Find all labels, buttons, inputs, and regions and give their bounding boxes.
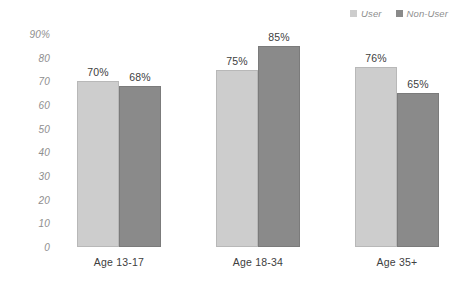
y-axis-tick-label: 70 [6, 76, 50, 87]
bar-value-label: 76% [355, 52, 397, 64]
bar-group-bars: 76%65% [355, 67, 439, 247]
bar-value-label: 75% [216, 55, 258, 67]
bar-container: 70% [77, 81, 119, 247]
y-axis-tick-label: 90% [6, 29, 50, 40]
y-axis-tick-label: 20 [6, 194, 50, 205]
bar-value-label: 65% [397, 78, 439, 90]
bar-non-user [397, 93, 439, 247]
y-axis-tick-label: 60 [6, 100, 50, 111]
y-axis: 90%80706050403020100 [0, 0, 50, 282]
bar-group: 70%68%Age 13-17 [77, 0, 161, 282]
bar-group-bars: 70%68% [77, 81, 161, 247]
bar-user [355, 67, 397, 247]
bar-value-label: 70% [77, 66, 119, 78]
y-axis-tick-label: 50 [6, 123, 50, 134]
bar-container: 75% [216, 70, 258, 248]
bar-container: 76% [355, 67, 397, 247]
bar-container: 85% [258, 46, 300, 247]
y-axis-tick-label: 0 [6, 242, 50, 253]
bar-non-user [119, 86, 161, 247]
bar-non-user [258, 46, 300, 247]
bar-user [216, 70, 258, 248]
bar-user [77, 81, 119, 247]
bar-container: 65% [397, 93, 439, 247]
y-axis-tick-label: 80 [6, 52, 50, 63]
y-axis-tick-label: 10 [6, 218, 50, 229]
bar-value-label: 68% [119, 71, 161, 83]
y-axis-tick-label: 30 [6, 171, 50, 182]
bar-group: 76%65%Age 35+ [355, 0, 439, 282]
x-axis-category-label: Age 35+ [355, 256, 439, 268]
bar-group-bars: 75%85% [216, 46, 300, 247]
bar-group: 75%85%Age 18-34 [216, 0, 300, 282]
y-axis-tick-label: 40 [6, 147, 50, 158]
bar-container: 68% [119, 86, 161, 247]
x-axis-category-label: Age 18-34 [216, 256, 300, 268]
bar-chart-plot: 90%80706050403020100 70%68%Age 13-1775%8… [0, 0, 456, 282]
bar-value-label: 85% [258, 31, 300, 43]
x-axis-category-label: Age 13-17 [77, 256, 161, 268]
